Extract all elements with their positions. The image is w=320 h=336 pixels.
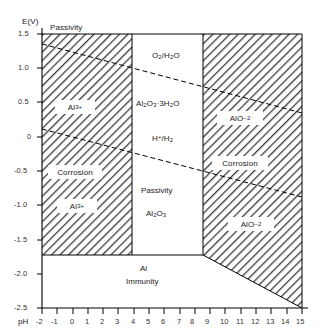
x-tick-label: 8: [190, 318, 194, 326]
species-label-alo2-upper: AlO−2: [217, 111, 263, 125]
y-tick-label: -1.5: [14, 236, 27, 244]
x-tick-label: 12: [251, 318, 260, 326]
x-tick-label: 9: [205, 318, 209, 326]
region-label-corrosion-acid: Corrosion: [48, 165, 102, 179]
species-label-alumina-hydrate: Al2O3·3H2O: [136, 100, 180, 108]
y-tick-label: -2.5: [14, 304, 27, 312]
region-label-immunity-line1: Al: [140, 264, 147, 273]
region-label-passivity-top: Passivity: [50, 24, 82, 32]
y-tick-label: -1.0: [14, 201, 27, 209]
y-tick-marks: [37, 34, 42, 308]
x-tick-label: 11: [236, 318, 244, 326]
line-label-oxygen: O2/H2O: [152, 52, 180, 60]
species-label-alumina: Al2O3: [146, 209, 166, 218]
y-tick-label: 0: [27, 133, 31, 141]
region-label-immunity-line2: Immunity: [126, 277, 158, 286]
region-immunity-acid-fill: [42, 255, 132, 308]
x-tick-label: 14: [281, 318, 290, 326]
y-tick-label: 1.0: [18, 64, 29, 72]
species-label-al3plus-upper: Al3+: [55, 100, 95, 114]
y-axis-title: E(V): [22, 18, 38, 26]
species-label-al3plus-lower: Al3+: [57, 199, 97, 213]
x-tick-label: -2: [36, 318, 43, 326]
x-tick-label: 6: [161, 318, 165, 326]
x-tick-label: 15: [296, 318, 305, 326]
x-axis-title: pH: [18, 318, 28, 326]
region-label-corrosion-alkaline: Corrosion: [212, 156, 268, 170]
x-tick-label: 2: [100, 318, 104, 326]
x-tick-label: 3: [115, 318, 119, 326]
x-tick-label: -1: [51, 318, 58, 326]
x-tick-label: 4: [131, 318, 135, 326]
y-tick-label: 1.5: [18, 30, 29, 38]
y-tick-label: -0.5: [14, 167, 27, 175]
x-tick-label: 0: [70, 318, 74, 326]
x-tick-label: 1: [85, 318, 89, 326]
x-tick-label: 5: [146, 318, 150, 326]
x-tick-label: 7: [177, 318, 181, 326]
y-tick-label: 0.5: [18, 98, 29, 106]
x-tick-marks: [42, 308, 302, 314]
species-label-alo2-lower: AlO−2: [228, 217, 274, 231]
x-tick-label: 13: [266, 318, 275, 326]
y-tick-label: -2.0: [14, 270, 27, 278]
region-label-passivity-center: Passivity: [141, 186, 173, 195]
x-tick-label: 10: [220, 318, 229, 326]
line-label-hydrogen: H+/H2: [152, 134, 173, 143]
